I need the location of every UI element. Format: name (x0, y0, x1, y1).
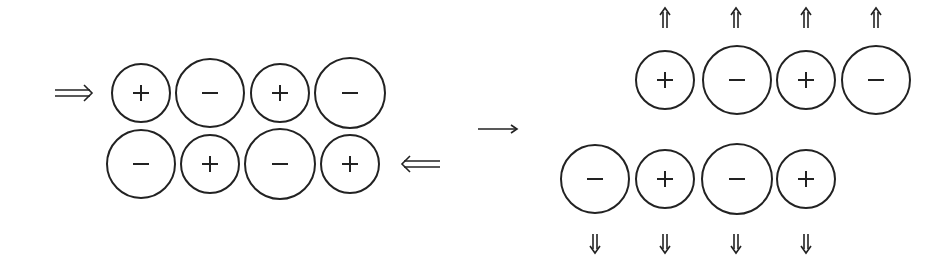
transition-arrow-icon (478, 125, 517, 133)
down-arrows (590, 234, 811, 253)
double-arrow-down-icon (590, 234, 600, 253)
left-panel (55, 58, 440, 199)
double-arrow-left-icon (402, 156, 440, 172)
ionic-shear-diagram (0, 0, 949, 263)
double-arrow-down-icon (801, 234, 811, 253)
double-arrow-up-icon (731, 8, 741, 28)
double-arrow-up-icon (660, 8, 670, 28)
double-arrow-down-icon (731, 234, 741, 253)
right-top-row (636, 46, 910, 114)
up-arrows (660, 8, 881, 28)
right-panel (561, 8, 910, 253)
double-arrow-up-icon (871, 8, 881, 28)
left-bottom-row (107, 129, 379, 199)
double-arrow-up-icon (801, 8, 811, 28)
right-bottom-row (561, 144, 835, 214)
left-top-row (112, 58, 385, 128)
double-arrow-right-icon (55, 85, 92, 101)
double-arrow-down-icon (660, 234, 670, 253)
